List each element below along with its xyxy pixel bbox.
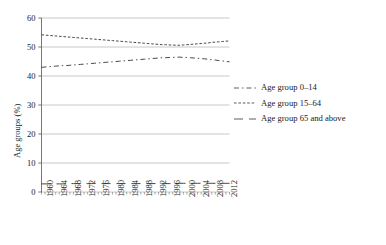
legend-item-0-14[interactable]: Age group 0–14	[234, 80, 384, 96]
y-axis-tick-marks	[38, 18, 41, 192]
series-line	[42, 183, 230, 184]
legend-label-15-64: Age group 15–64	[261, 99, 321, 108]
series-line	[42, 35, 230, 45]
legend-item-65-above[interactable]: Age group 65 and above	[234, 111, 384, 127]
legend-swatch-fine-dash-icon	[234, 99, 256, 107]
gridlines	[42, 18, 230, 192]
x-axis-minor-ticks	[42, 192, 230, 195]
legend-swatch-long-dash-icon	[234, 115, 256, 123]
series-line	[42, 57, 230, 67]
chart-legend: Age group 0–14 Age group 15–64 Age group…	[234, 80, 384, 127]
legend-label-0-14: Age group 0–14	[261, 83, 317, 92]
legend-swatch-dash-dot-icon	[234, 84, 256, 92]
legend-label-65-above: Age group 65 and above	[261, 114, 345, 123]
legend-item-15-64[interactable]: Age group 15–64	[234, 96, 384, 112]
data-series-layer	[42, 35, 230, 184]
line-chart: Age groups (%) 0102030405060 19601964196…	[0, 0, 386, 245]
